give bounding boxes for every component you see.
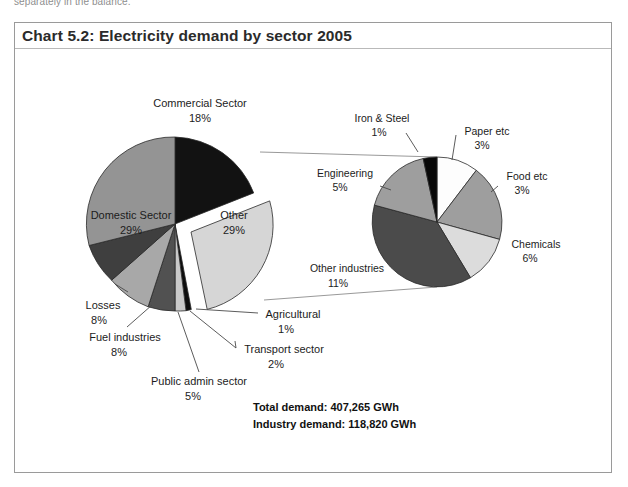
connector-line-bottom [264,287,437,300]
breakout-pie-slices [372,157,502,287]
label-engineering-name: Engineering [317,167,373,179]
connector-line-top [260,152,437,157]
label-losses-value: 8% [91,314,107,326]
label-domestic-sector-value: 29% [120,224,142,236]
label-fuel-industries-value: 8% [111,346,127,358]
label-paper-etc-value: 3% [474,139,489,151]
label-agricultural-name: Agricultural [265,308,320,320]
label-domestic-sector-name: Domestic Sector [91,209,172,221]
label-agricultural-value: 1% [278,323,294,335]
label-chemicals-name: Chemicals [511,238,560,250]
leader-paper-etc [452,135,456,160]
label-commercial-sector-name: Commercial Sector [153,97,247,109]
electricity-demand-figure: Commercial Sector 18% Domestic Sector 29… [0,0,628,487]
leader-agricultural [196,309,258,313]
leader-fuel-industries [127,305,152,327]
label-other-value: 29% [223,224,245,236]
main-pie-slices [86,137,273,311]
pie-slice-transport-sector[interactable] [175,224,186,311]
label-other-industries-value: 11% [328,277,348,289]
label-losses-name: Losses [86,299,121,311]
label-chemicals-value: 6% [522,252,537,264]
label-engineering-value: 5% [332,181,347,193]
label-transport-sector-name: Transport sector [244,343,324,355]
label-other-name: Other [220,209,248,221]
leader-public-admin [178,312,199,372]
label-other-industries-name: Other industries [310,262,384,274]
label-commercial-sector-value: 18% [189,112,211,124]
leader-iron-and-steel [406,133,418,152]
label-iron-and-steel-name: Iron & Steel [355,112,410,124]
totals-block: Total demand: 407,265 GWh Industry deman… [253,401,416,430]
label-food-etc-value: 3% [514,184,529,196]
label-public-admin-sector-name: Public admin sector [151,375,247,387]
industry-demand-text: Industry demand: 118,820 GWh [253,418,416,430]
label-fuel-industries-name: Fuel industries [89,331,161,343]
label-public-admin-sector-value: 5% [185,390,201,402]
label-transport-sector-value: 2% [268,358,284,370]
total-demand-text: Total demand: 407,265 GWh [253,401,399,413]
label-iron-and-steel-value: 1% [371,126,386,138]
label-food-etc-name: Food etc [507,170,548,182]
label-paper-etc-name: Paper etc [465,125,510,137]
leader-transport [190,311,236,348]
